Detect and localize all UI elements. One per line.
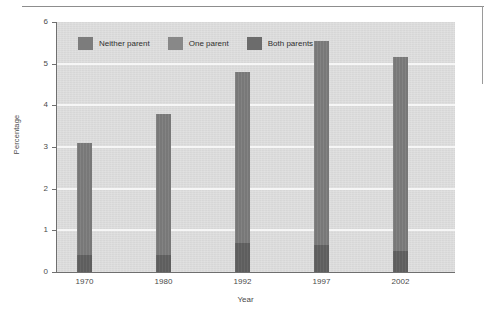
legend-item-both-parents[interactable]: Both parents: [247, 37, 313, 50]
legend-swatch-both-parents: [247, 37, 262, 50]
y-tick-label-0: 0: [34, 268, 48, 276]
stacked-bar-chart: Neither parent One parent Both parents 6…: [0, 0, 491, 321]
bar-1980-segment-upper: [156, 114, 171, 256]
x-tick-label-1970: 1970: [60, 277, 110, 286]
bar-2002-segment-upper: [393, 57, 408, 251]
y-tick-label-6: 6: [34, 18, 48, 26]
x-axis-line: [56, 272, 455, 273]
bar-1970-segment-both-parents: [77, 255, 92, 272]
legend-label-one-parent: One parent: [189, 39, 229, 48]
bar-1992-segment-upper: [235, 72, 250, 243]
legend-item-neither-parent[interactable]: Neither parent: [78, 37, 150, 50]
y-tick-mark-3: [52, 147, 57, 148]
y-tick-mark-1: [52, 230, 57, 231]
y-tick-label-1: 1: [34, 226, 48, 234]
bar-2002[interactable]: [393, 57, 408, 272]
chart-legend: Neither parent One parent Both parents: [78, 35, 313, 51]
y-tick-mark-4: [52, 105, 57, 106]
bar-1980[interactable]: [156, 114, 171, 272]
y-tick-mark-5: [52, 64, 57, 65]
y-tick-label-2: 2: [34, 185, 48, 193]
bar-1992[interactable]: [235, 72, 250, 272]
legend-label-neither-parent: Neither parent: [99, 39, 150, 48]
y-tick-mark-0: [52, 272, 57, 273]
y-tick-label-5: 5: [34, 60, 48, 68]
legend-item-one-parent[interactable]: One parent: [168, 37, 229, 50]
y-tick-label-4: 4: [34, 101, 48, 109]
bar-1997-segment-both-parents: [314, 245, 329, 272]
legend-swatch-neither-parent: [78, 37, 93, 50]
x-tick-label-2002: 2002: [376, 277, 426, 286]
y-tick-mark-2: [52, 189, 57, 190]
x-tick-label-1980: 1980: [139, 277, 189, 286]
bar-1970-segment-upper: [77, 143, 92, 256]
legend-swatch-one-parent: [168, 37, 183, 50]
bar-1970[interactable]: [77, 143, 92, 272]
bar-1992-segment-both-parents: [235, 243, 250, 272]
bar-2002-segment-both-parents: [393, 251, 408, 272]
plot-area: Neither parent One parent Both parents: [57, 22, 455, 272]
legend-label-both-parents: Both parents: [268, 39, 313, 48]
x-tick-label-1997: 1997: [297, 277, 347, 286]
bar-1980-segment-both-parents: [156, 255, 171, 272]
bar-1997-segment-upper: [314, 41, 329, 245]
x-tick-label-1992: 1992: [218, 277, 268, 286]
y-tick-label-3: 3: [34, 143, 48, 151]
x-axis-title: Year: [0, 295, 491, 304]
y-tick-mark-6: [52, 22, 57, 23]
y-axis-title: Percentage: [12, 105, 21, 165]
bar-1997[interactable]: [314, 41, 329, 272]
